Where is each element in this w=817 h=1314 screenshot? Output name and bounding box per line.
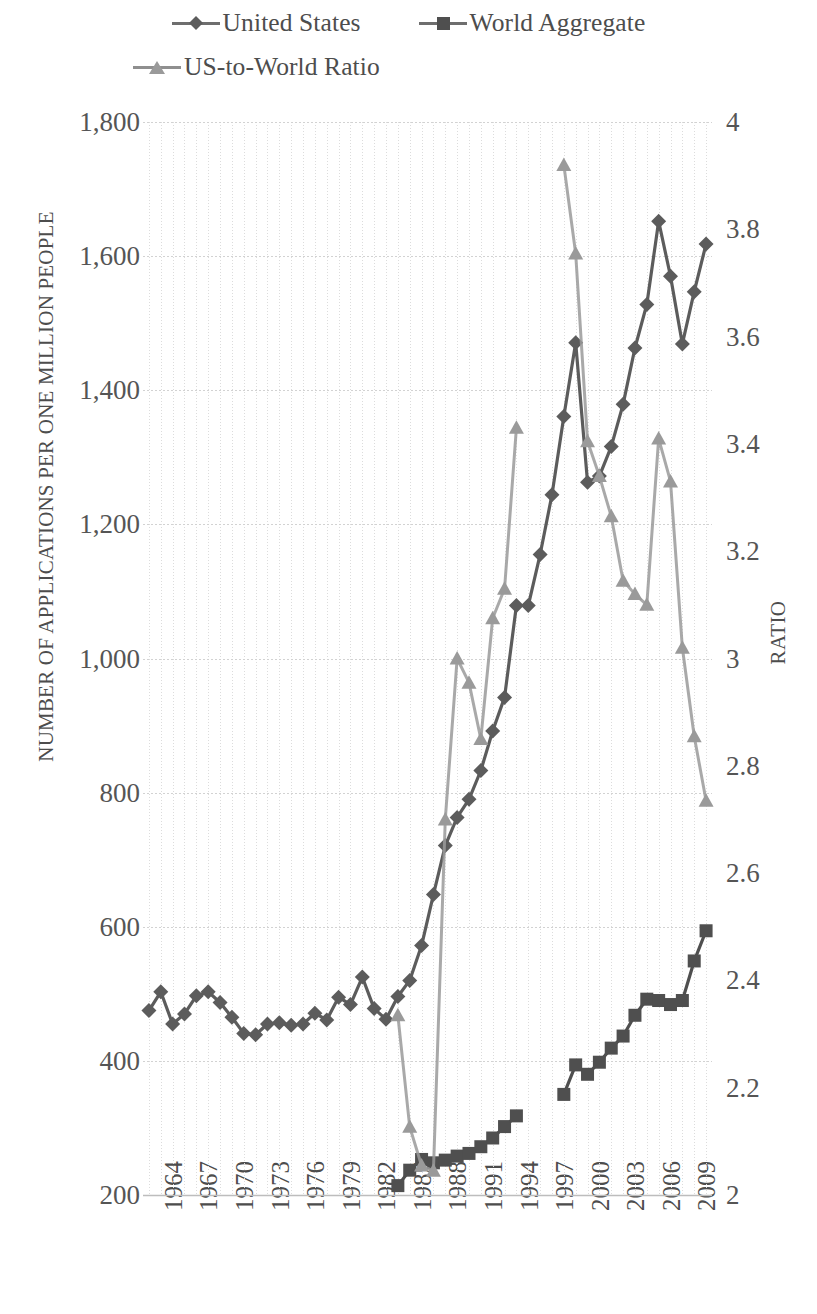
series-united-states [141,214,713,1042]
series-us-to-world-ratio [390,157,713,1176]
chart-root: United States World Aggregate [0,0,817,1314]
plot-area [0,0,817,1314]
